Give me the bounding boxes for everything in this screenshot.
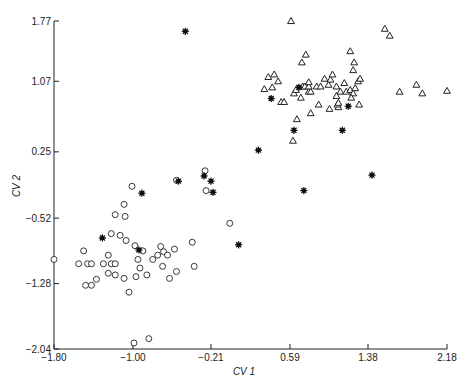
triangle-marker — [356, 101, 363, 107]
y-axis-title: CV 2 — [11, 174, 22, 197]
triangle-marker — [305, 79, 312, 85]
triangle-marker — [298, 59, 305, 65]
triangle-marker — [275, 78, 282, 84]
triangle-marker — [294, 116, 301, 122]
y-tick-label: 0.25 — [32, 146, 52, 157]
triangle-marker — [386, 32, 393, 38]
asterisk-marker — [368, 171, 375, 178]
asterisk-marker — [235, 241, 242, 248]
triangle-marker — [351, 59, 358, 65]
y-tick-label: −1.28 — [26, 278, 52, 289]
asterisk-marker — [138, 190, 145, 197]
triangle-marker — [413, 81, 420, 87]
triangle-marker — [329, 71, 336, 77]
circle-marker — [100, 261, 106, 267]
asterisk-marker — [339, 127, 346, 134]
triangle-marker — [271, 71, 278, 77]
circle-marker — [81, 248, 87, 254]
triangle-marker — [315, 101, 322, 107]
circle-marker — [203, 188, 209, 194]
triangle-marker — [352, 85, 359, 91]
asterisk-marker — [300, 187, 307, 194]
circle-marker — [76, 261, 82, 267]
asterisk-marker — [209, 189, 216, 196]
circle-marker — [133, 274, 139, 280]
asterisk-marker — [99, 234, 106, 241]
asterisk-marker — [135, 246, 142, 253]
y-axis: 1.771.070.25−0.52−1.28−2.04 — [26, 16, 59, 355]
triangle-marker — [321, 75, 328, 81]
triangle-marker — [307, 110, 314, 116]
x-tick-label: 0.59 — [280, 352, 300, 363]
x-tick-label: 1.38 — [358, 352, 378, 363]
triangle-marker — [261, 86, 268, 92]
asterisk-marker — [255, 147, 262, 154]
asterisk-marker — [200, 172, 207, 179]
circle-marker — [189, 239, 195, 245]
circle-marker — [144, 272, 150, 278]
y-tick-label: −0.52 — [26, 213, 52, 224]
asterisk-marker — [268, 95, 275, 102]
circle-marker — [150, 256, 156, 262]
triangle-marker — [333, 83, 340, 89]
circle-marker — [173, 269, 179, 275]
x-tick-label: −1.80 — [41, 352, 67, 363]
circle-marker — [160, 263, 166, 269]
triangle-marker — [419, 90, 426, 96]
triangle-marker — [297, 94, 304, 100]
triangle-marker — [396, 88, 403, 94]
asterisk-marker — [290, 127, 297, 134]
triangle-marker — [288, 18, 295, 24]
x-axis-title: CV 1 — [233, 366, 255, 377]
circle-marker — [126, 289, 132, 295]
triangle-marker — [350, 67, 357, 73]
triangle-marker — [347, 48, 354, 54]
circle-marker — [121, 201, 127, 207]
triangle-marker — [335, 99, 342, 105]
x-tick-label: −1.00 — [120, 352, 146, 363]
circle-marker — [112, 272, 118, 278]
x-axis: −1.80−1.00−0.210.591.382.18 — [41, 344, 457, 363]
circle-marker — [121, 275, 127, 281]
asterisk-marker — [182, 28, 189, 35]
y-tick-label: 1.07 — [32, 76, 52, 87]
circle-marker — [155, 252, 161, 258]
circle-marker — [165, 252, 171, 258]
circle-marker — [123, 238, 129, 244]
triangle-marker — [381, 25, 388, 31]
circle-marker — [227, 220, 233, 226]
circle-marker — [135, 256, 141, 262]
x-tick-label: 2.18 — [437, 352, 457, 363]
triangle-marker — [326, 105, 333, 111]
scatter-chart: 1.771.070.25−0.52−1.28−2.04 −1.80−1.00−0… — [0, 0, 466, 383]
circle-marker — [105, 252, 111, 258]
x-tick-label: −0.21 — [198, 352, 224, 363]
asterisk-marker — [295, 84, 302, 91]
circle-marker — [117, 232, 123, 238]
circle-marker — [191, 263, 197, 269]
circle-marker — [112, 212, 118, 218]
circle-marker — [112, 261, 118, 267]
circle-marker — [137, 265, 143, 271]
circle-marker — [146, 336, 152, 342]
circle-marker — [167, 275, 173, 281]
circle-marker — [89, 261, 95, 267]
circle-marker — [122, 213, 128, 219]
circle-marker — [105, 270, 111, 276]
circle-marker — [131, 340, 137, 346]
triangle-marker — [341, 80, 348, 86]
triangle-marker — [302, 51, 309, 57]
circle-marker — [108, 231, 114, 237]
circle-marker — [129, 183, 135, 189]
circle-marker — [89, 282, 95, 288]
asterisk-marker — [175, 178, 182, 185]
circle-marker — [93, 276, 99, 282]
data-points — [51, 18, 450, 346]
circle-marker — [202, 168, 208, 174]
y-tick-label: 1.77 — [32, 16, 52, 27]
triangle-marker — [444, 87, 451, 93]
circle-marker — [171, 246, 177, 252]
triangle-marker — [290, 137, 297, 143]
asterisk-marker — [345, 103, 352, 110]
asterisk-marker — [207, 178, 214, 185]
